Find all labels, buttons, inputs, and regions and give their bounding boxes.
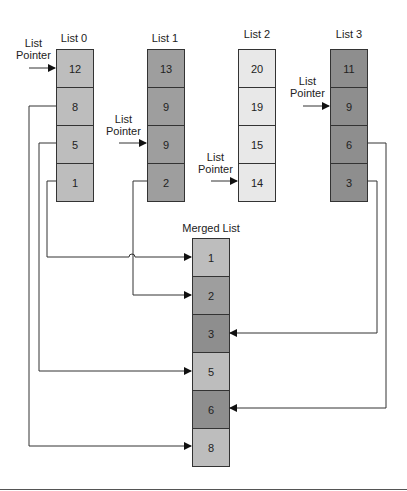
arrow-l0-8-to-merged-8 [29, 106, 191, 446]
arrow-l0-1-to-merged-1 [47, 181, 191, 257]
connector-lines [0, 0, 407, 491]
arrow-l3-6-to-merged-6 [230, 143, 386, 408]
bottom-divider [0, 489, 407, 490]
arrow-l1-2-to-merged-2 [133, 181, 191, 295]
arrow-l3-3-to-merged-3 [230, 181, 377, 333]
